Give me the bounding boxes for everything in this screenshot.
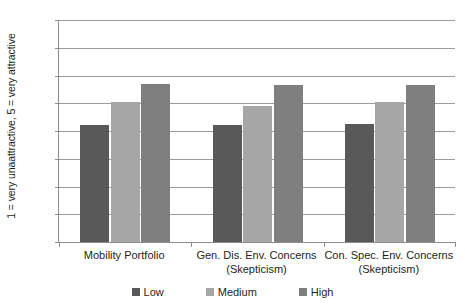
bar: [111, 102, 140, 242]
x-axis-baseline: [59, 242, 455, 243]
legend-label: Medium: [218, 286, 257, 298]
y-axis-tick-mark: [55, 131, 59, 132]
gridline: [59, 48, 455, 49]
y-axis-title: 1 = very unaattractive, 5 = very attract…: [0, 0, 22, 252]
legend-item-high[interactable]: High: [299, 286, 334, 298]
category-label-line-2: (Skepticism): [323, 263, 455, 277]
x-axis-tick-mark: [191, 242, 192, 247]
x-axis-category-label: Mobility Portfolio: [58, 249, 190, 263]
x-axis-category-label: Con. Spec. Env. Concerns(Skepticism): [323, 249, 455, 276]
x-axis-tick-mark: [324, 242, 325, 247]
bar-chart: 1 = very unaattractive, 5 = very attract…: [0, 0, 465, 306]
gridline: [59, 20, 455, 21]
y-axis-tick-mark: [55, 76, 59, 77]
bar: [375, 102, 404, 242]
gridline: [59, 76, 455, 77]
legend: LowMediumHigh: [0, 284, 465, 300]
plot-area: [58, 20, 455, 242]
x-axis-tick-mark: [59, 242, 60, 247]
legend-swatch-icon: [132, 288, 140, 296]
y-axis-tick-mark: [55, 20, 59, 21]
bar: [141, 84, 170, 242]
category-label-line-1: Con. Spec. Env. Concerns: [324, 249, 453, 261]
category-label-line-1: Mobility Portfolio: [84, 249, 165, 261]
bar: [243, 106, 272, 242]
category-label-line-1: Gen. Dis. Env. Concerns: [196, 249, 316, 261]
legend-item-medium[interactable]: Medium: [206, 286, 257, 298]
bar: [80, 125, 109, 242]
x-axis-tick-mark: [455, 242, 456, 247]
legend-swatch-icon: [206, 288, 214, 296]
bar: [406, 85, 435, 242]
legend-swatch-icon: [299, 288, 307, 296]
y-axis-tick-mark: [55, 214, 59, 215]
bar: [213, 125, 242, 242]
bar: [274, 85, 303, 242]
x-axis-category-label: Gen. Dis. Env. Concerns(Skepticism): [190, 249, 322, 276]
bar: [345, 124, 374, 242]
y-axis-tick-mark: [55, 103, 59, 104]
y-axis-tick-mark: [55, 48, 59, 49]
y-axis-tick-mark: [55, 159, 59, 160]
legend-item-low[interactable]: Low: [132, 286, 164, 298]
y-axis-title-label: 1 = very unaattractive, 5 = very attract…: [5, 33, 17, 218]
category-label-line-2: (Skepticism): [190, 263, 322, 277]
legend-label: High: [311, 286, 334, 298]
y-axis-tick-mark: [55, 187, 59, 188]
legend-label: Low: [144, 286, 164, 298]
